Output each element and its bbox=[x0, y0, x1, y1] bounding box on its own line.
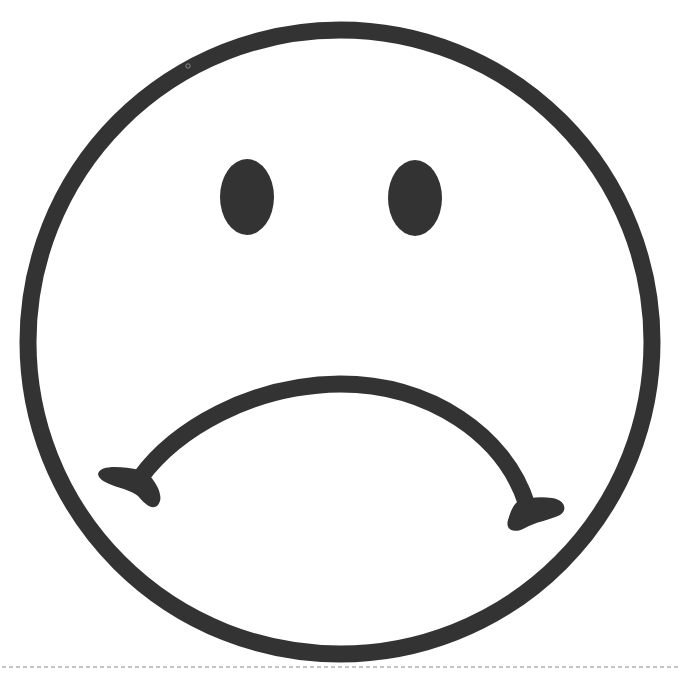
sad-face-figure bbox=[0, 0, 683, 679]
face-outline bbox=[28, 30, 652, 654]
right-eye bbox=[388, 160, 442, 236]
left-eye bbox=[220, 159, 274, 235]
mouth-frown bbox=[140, 384, 527, 505]
mouth-right-end bbox=[507, 497, 564, 531]
